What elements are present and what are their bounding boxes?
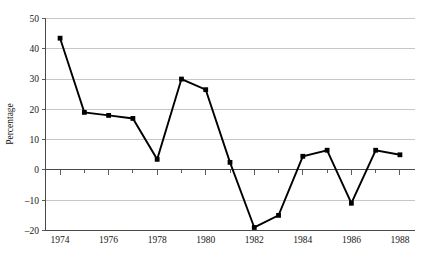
x-tick-label-1982: 1982 xyxy=(245,235,264,245)
gridlines xyxy=(46,19,415,231)
data-point-1976 xyxy=(106,113,111,118)
x-tick-label-1988: 1988 xyxy=(390,235,409,245)
data-point-1974 xyxy=(58,36,63,41)
y-tick-label-0: 0 xyxy=(34,165,39,175)
y-axis-tick-labels: 50403020100–10–20 xyxy=(24,14,40,236)
chart-container: 50403020100–10–20 1974197619781980198219… xyxy=(0,0,425,263)
data-point-1986 xyxy=(349,201,354,206)
x-axis-ticks xyxy=(60,170,400,175)
y-tick-label-20: 20 xyxy=(30,105,40,115)
y-axis-title: Percentage xyxy=(5,103,15,145)
y-tick-label-40: 40 xyxy=(30,44,40,54)
y-tick-label-30: 30 xyxy=(30,74,40,84)
series-polyline xyxy=(60,38,400,227)
data-point-1980 xyxy=(203,87,208,92)
line-chart: 50403020100–10–20 1974197619781980198219… xyxy=(0,0,425,263)
data-point-1988 xyxy=(398,152,403,157)
data-point-1982 xyxy=(252,225,257,230)
y-tick-label--10: –10 xyxy=(24,196,40,206)
data-point-1985 xyxy=(325,148,330,153)
data-point-1975 xyxy=(82,110,87,115)
x-tick-label-1980: 1980 xyxy=(196,235,215,245)
data-point-1984 xyxy=(300,154,305,159)
x-tick-label-1978: 1978 xyxy=(148,235,167,245)
data-point-1981 xyxy=(228,160,233,165)
data-point-1977 xyxy=(130,116,135,121)
data-point-1987 xyxy=(373,148,378,153)
x-axis-tick-labels: 19741976197819801982198419861988 xyxy=(51,235,410,245)
x-tick-label-1986: 1986 xyxy=(342,235,361,245)
data-point-1978 xyxy=(155,157,160,162)
y-tick-label-10: 10 xyxy=(30,135,40,145)
y-tick-label-50: 50 xyxy=(30,14,40,24)
data-point-1983 xyxy=(276,213,281,218)
x-tick-label-1976: 1976 xyxy=(99,235,118,245)
data-point-1979 xyxy=(179,77,184,82)
x-tick-label-1974: 1974 xyxy=(51,235,70,245)
x-tick-label-1984: 1984 xyxy=(293,235,312,245)
data-series-line xyxy=(60,38,400,227)
y-tick-label--20: –20 xyxy=(24,226,40,236)
